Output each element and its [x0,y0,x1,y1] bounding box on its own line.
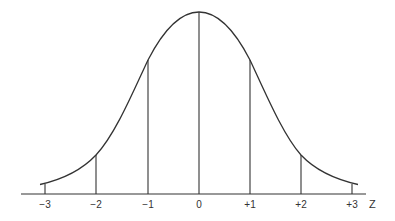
z-score-lines [45,12,352,194]
z-score-labels: −3−2−10+1+2+3 [39,199,358,210]
axis-label-z: Z [369,198,376,210]
tick-label: −2 [90,199,102,210]
tick-label: −1 [142,199,154,210]
tick-label: 0 [196,199,202,210]
tick-label: +3 [346,199,358,210]
tick-label: +2 [295,199,307,210]
normal-distribution-diagram: −3−2−10+1+2+3 Z [0,0,395,221]
tick-label: +1 [244,199,256,210]
tick-label: −3 [39,199,51,210]
